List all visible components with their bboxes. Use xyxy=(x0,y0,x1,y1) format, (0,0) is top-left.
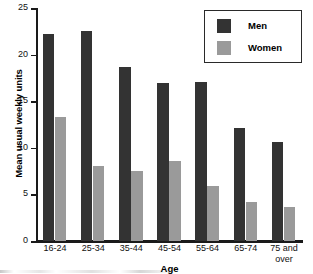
bar-men xyxy=(272,142,284,241)
y-axis-tick-label: 10 xyxy=(18,142,28,153)
scan-artifact xyxy=(0,270,180,273)
legend-label-men: Men xyxy=(248,20,267,31)
bar-women xyxy=(55,117,67,241)
bar-group xyxy=(74,8,112,241)
bar-group xyxy=(112,8,150,241)
bar-men xyxy=(119,67,131,241)
bar-men xyxy=(81,31,93,241)
x-axis-tick-label-line: 35-44 xyxy=(112,243,150,254)
bar-women xyxy=(284,207,296,241)
bar-women xyxy=(169,161,181,241)
legend-label-women: Women xyxy=(248,42,282,53)
x-axis-tick-label-line: 75 and xyxy=(265,243,303,254)
x-axis-tick-label-line: 55-64 xyxy=(189,243,227,254)
x-axis-tick-label: 25-34 xyxy=(74,243,112,254)
bar-chart: Mean usual weekly units 0510152025 16-24… xyxy=(0,0,313,274)
legend-swatch-men-icon xyxy=(217,19,231,33)
y-axis-title: Mean usual weekly units xyxy=(13,54,24,194)
x-axis-tick-label: 35-44 xyxy=(112,243,150,254)
x-axis-tick-label: 75 andover xyxy=(265,243,303,264)
chart-legend: Men Women xyxy=(204,10,302,63)
x-axis-tick-label-line: 65-74 xyxy=(227,243,265,254)
x-axis-tick-label-line: 16-24 xyxy=(36,243,74,254)
bar-group xyxy=(150,8,188,241)
bar-men xyxy=(157,83,169,241)
x-axis-tick-label: 16-24 xyxy=(36,243,74,254)
x-axis-tick-label: 45-54 xyxy=(150,243,188,254)
legend-swatch-women-icon xyxy=(217,41,231,55)
x-axis-tick-label: 55-64 xyxy=(189,243,227,254)
bar-men xyxy=(195,82,207,241)
bar-women xyxy=(246,202,258,241)
y-axis-tick-label: 5 xyxy=(23,188,28,199)
bar-group xyxy=(36,8,74,241)
bar-women xyxy=(93,166,105,241)
x-axis-tick-label-line: 45-54 xyxy=(150,243,188,254)
bar-women xyxy=(207,186,219,241)
x-axis-tick-label: 65-74 xyxy=(227,243,265,254)
y-axis-tick-label: 25 xyxy=(18,2,28,13)
bar-men xyxy=(43,34,55,241)
y-axis-tick-label: 20 xyxy=(18,49,28,60)
y-axis-tick-label: 15 xyxy=(18,95,28,106)
bar-men xyxy=(234,128,246,241)
x-axis-tick-label-line: 25-34 xyxy=(74,243,112,254)
y-axis-tick-label: 0 xyxy=(23,235,28,246)
bar-women xyxy=(131,171,143,241)
